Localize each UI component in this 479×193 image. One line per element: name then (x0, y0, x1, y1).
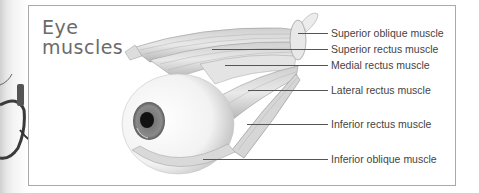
label-lateral-rectus-muscle: Lateral rectus muscle (331, 84, 431, 96)
label-superior-rectus-muscle: Superior rectus muscle (331, 43, 438, 55)
leader-line-lateral-rectus (248, 90, 328, 91)
leader-line-inferior-rectus (247, 124, 328, 125)
label-superior-oblique-muscle: Superior oblique muscle (331, 27, 444, 39)
leader-line-superior-oblique (298, 33, 328, 34)
leader-line-inferior-oblique (203, 159, 328, 160)
leader-line-medial-rectus (225, 65, 328, 66)
label-inferior-rectus-muscle: Inferior rectus muscle (331, 118, 431, 130)
leader-line-superior-rectus (212, 49, 328, 50)
label-inferior-oblique-muscle: Inferior oblique muscle (331, 153, 437, 165)
label-medial-rectus-muscle: Medial rectus muscle (331, 59, 430, 71)
